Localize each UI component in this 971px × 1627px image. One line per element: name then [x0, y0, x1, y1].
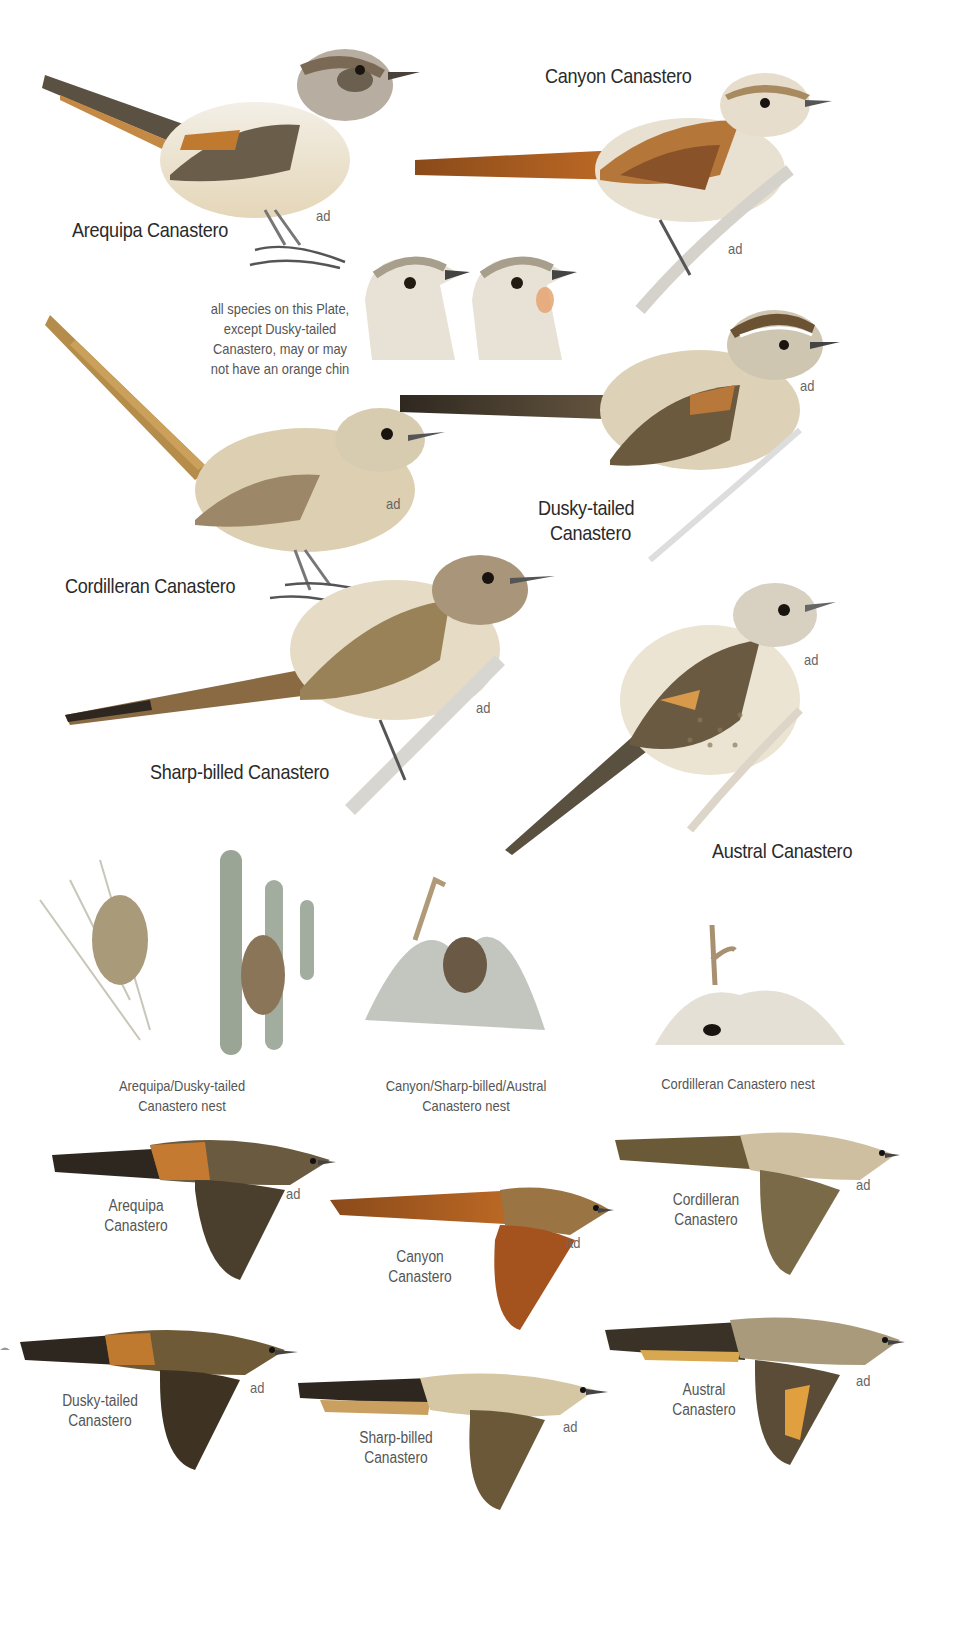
nest-cordilleran-illustration — [655, 925, 845, 1045]
nest-canyon-sharp-austral-illustration — [365, 880, 545, 1030]
label-flight-canyon: Canyon Canastero — [377, 1247, 463, 1287]
canyon-flight-illustration — [330, 1188, 614, 1331]
label-line: Canastero — [538, 520, 634, 545]
heads-illustration — [365, 258, 577, 360]
age-label-sharp-billed: ad — [476, 699, 490, 716]
caption-nest-canyon-sharp-austral: Canyon/Sharp-billed/Austral Canastero ne… — [380, 1076, 552, 1116]
age-label-flight-canyon: ad — [566, 1234, 580, 1251]
age-label-dusky-tailed: ad — [800, 377, 814, 394]
label-line: Austral — [661, 1380, 747, 1400]
age-label-austral: ad — [804, 651, 818, 668]
age-label-flight-austral: ad — [856, 1372, 870, 1389]
field-guide-plate: Arequipa Canastero ad Canyon Canastero a… — [0, 0, 971, 1627]
note-line-2: except Dusky-tailed — [194, 319, 366, 339]
age-label-cordilleran: ad — [386, 495, 400, 512]
label-flight-sharp-billed: Sharp-billed Canastero — [353, 1428, 439, 1468]
label-sharp-billed-canastero: Sharp-billed Canastero — [150, 760, 329, 784]
austral-flight-illustration — [605, 1318, 905, 1466]
label-line: Canyon — [377, 1247, 463, 1267]
note-line-4: not have an orange chin — [194, 359, 366, 379]
label-line: Canastero — [377, 1267, 463, 1287]
label-arequipa-canastero: Arequipa Canastero — [72, 218, 228, 242]
age-label-canyon: ad — [728, 240, 742, 257]
caption-nest-arequipa-dusky: Arequipa/Dusky-tailed Canastero nest — [96, 1076, 268, 1116]
austral-perched-illustration — [505, 583, 836, 855]
age-label-flight-sharp-billed: ad — [563, 1418, 577, 1435]
caption-line: Canastero nest — [380, 1096, 552, 1116]
age-label-arequipa: ad — [316, 207, 330, 224]
label-line: Arequipa — [93, 1196, 179, 1216]
cordilleran-flight-illustration — [615, 1133, 900, 1276]
caption-line: Cordilleran Canastero nest — [652, 1074, 824, 1094]
nest-arequipa-dusky-illustration — [40, 850, 314, 1055]
caption-line: Canyon/Sharp-billed/Austral — [380, 1076, 552, 1096]
caption-line: Arequipa/Dusky-tailed — [96, 1076, 268, 1096]
label-line: Dusky-tailed — [538, 495, 634, 520]
label-line: Canastero — [57, 1411, 143, 1431]
plate-illustrations — [0, 0, 971, 1627]
label-line: Canastero — [353, 1448, 439, 1468]
caption-nest-cordilleran: Cordilleran Canastero nest — [652, 1074, 824, 1094]
label-line: Cordilleran — [663, 1190, 749, 1210]
orange-chin-note: all species on this Plate, except Dusky-… — [194, 299, 366, 379]
label-line: Dusky-tailed — [57, 1391, 143, 1411]
label-flight-dusky-tailed: Dusky-tailed Canastero — [57, 1391, 143, 1431]
label-canyon-canastero: Canyon Canastero — [545, 64, 691, 88]
age-label-flight-dusky-tailed: ad — [250, 1379, 264, 1396]
note-line-1: all species on this Plate, — [194, 299, 366, 319]
label-flight-arequipa: Arequipa Canastero — [93, 1196, 179, 1236]
label-cordilleran-canastero: Cordilleran Canastero — [65, 574, 235, 598]
age-label-flight-cordilleran: ad — [856, 1176, 870, 1193]
label-austral-canastero: Austral Canastero — [712, 839, 852, 863]
label-flight-austral: Austral Canastero — [661, 1380, 747, 1420]
canyon-perched-illustration — [415, 73, 832, 310]
label-line: Canastero — [661, 1400, 747, 1420]
label-line: Canastero — [663, 1210, 749, 1230]
label-flight-cordilleran: Cordilleran Canastero — [663, 1190, 749, 1230]
age-label-flight-arequipa: ad — [286, 1185, 300, 1202]
caption-line: Canastero nest — [96, 1096, 268, 1116]
sharp-billed-flight-illustration — [298, 1374, 608, 1510]
dusky-tailed-flight-illustration — [0, 1330, 298, 1470]
label-dusky-tailed-canastero: Dusky-tailed Canastero — [538, 495, 634, 545]
label-line: Canastero — [93, 1216, 179, 1236]
label-line: Sharp-billed — [353, 1428, 439, 1448]
note-line-3: Canastero, may or may — [194, 339, 366, 359]
